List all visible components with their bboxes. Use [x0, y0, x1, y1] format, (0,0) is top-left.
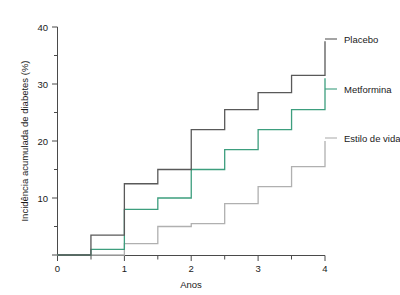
x-tick-label-1: 1: [122, 263, 127, 274]
series-label-placebo: Placebo: [344, 34, 378, 45]
series-line-placebo: [58, 41, 326, 255]
x-axis-major-ticks: [58, 256, 326, 262]
cumulative-incidence-chart: 40 30 20 10 0 1 2 3 4 Anos Incidência ac…: [0, 0, 400, 295]
chart-page: 40 30 20 10 0 1 2 3 4 Anos Incidência ac…: [0, 0, 400, 295]
x-tick-label-0: 0: [55, 263, 60, 274]
x-tick-label-4: 4: [322, 263, 327, 274]
series-label-metformina: Metformina: [344, 84, 392, 95]
y-tick-label-30: 30: [37, 79, 48, 90]
x-tick-label-2: 2: [189, 263, 194, 274]
y-tick-label-10: 10: [37, 193, 48, 204]
y-tick-label-20: 20: [37, 136, 48, 147]
series-group: [58, 41, 326, 255]
y-axis-title: Incidência acumulada de diabetes (%): [19, 60, 30, 221]
x-tick-label-3: 3: [255, 263, 260, 274]
y-axis-major-ticks: [52, 27, 58, 255]
series-label-estilo-de-vida: Estilo de vida: [344, 133, 400, 144]
leader-line-group: [325, 39, 337, 138]
y-tick-label-40: 40: [37, 22, 48, 33]
x-axis-title: Anos: [180, 279, 202, 290]
